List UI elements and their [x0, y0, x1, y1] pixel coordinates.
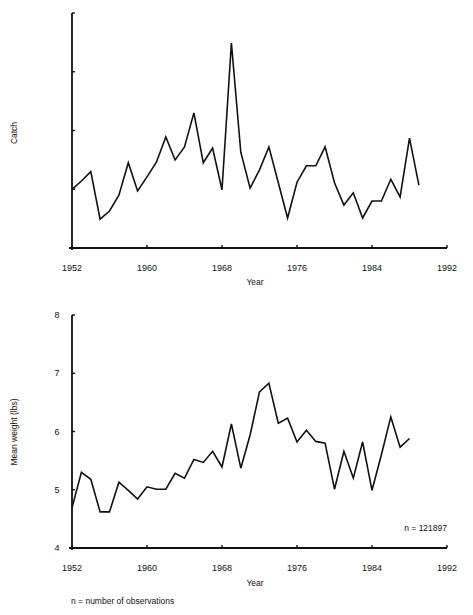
x-tick-label: 1992 — [437, 263, 457, 273]
x-tick-label: 1976 — [287, 563, 307, 573]
y-tick-label: 4 — [54, 543, 59, 553]
catch-line — [72, 43, 419, 219]
mean-weight-x-axis-title: Year — [246, 578, 263, 588]
y-tick-label: 6 — [54, 427, 59, 437]
mean-weight-x-ticks: 195219601968197619841992 — [62, 545, 457, 573]
figure: 195219601968197619841992 Year Catch 1952… — [0, 0, 473, 615]
x-tick-label: 1984 — [362, 563, 382, 573]
x-tick-label: 1976 — [287, 263, 307, 273]
catch-axes — [69, 13, 447, 250]
x-tick-label: 1968 — [212, 263, 232, 273]
x-tick-label: 1960 — [137, 263, 157, 273]
y-tick-label: 5 — [54, 485, 59, 495]
x-tick-label: 1984 — [362, 263, 382, 273]
mean-weight-y-axis-title: Mean weight (lbs) — [9, 398, 19, 465]
x-tick-label: 1968 — [212, 563, 232, 573]
y-tick-label: 8 — [54, 310, 59, 320]
x-tick-label: 1952 — [62, 263, 82, 273]
x-tick-label: 1960 — [137, 563, 157, 573]
catch-y-axis-title: Catch — [9, 122, 19, 144]
sample-size-annotation: n = 121897 — [404, 523, 447, 533]
x-tick-label: 1952 — [62, 563, 82, 573]
y-tick-label: 7 — [54, 368, 59, 378]
catch-x-ticks: 195219601968197619841992 — [62, 245, 457, 273]
mean-weight-chart: 195219601968197619841992 45678 Year Mean… — [9, 310, 457, 588]
catch-x-axis-title: Year — [246, 277, 263, 287]
catch-chart: 195219601968197619841992 Year Catch — [9, 13, 457, 287]
mean-weight-axes — [69, 315, 447, 550]
footnote: n = number of observations — [71, 596, 174, 606]
x-tick-label: 1992 — [437, 563, 457, 573]
mean-weight-line — [72, 383, 410, 512]
